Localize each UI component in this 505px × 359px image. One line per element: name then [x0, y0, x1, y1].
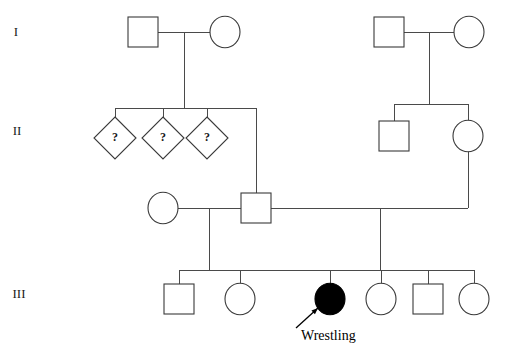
individual-ii-4 — [379, 121, 409, 151]
pedigree-chart: ??? IIIIII Wrestling — [0, 0, 505, 359]
individual-ii-2-label: ? — [160, 130, 166, 144]
individual-ii-5 — [453, 120, 483, 152]
individual-ii-1-label: ? — [112, 130, 118, 144]
generation-3: III — [13, 286, 26, 301]
individual-iii-4 — [366, 283, 396, 315]
individual-i-4 — [454, 16, 484, 48]
individual-ii-3-label: ? — [204, 130, 210, 144]
individual-iii-6 — [459, 283, 489, 315]
individual-iii-3 — [315, 283, 345, 315]
proband-annotation-text: Wrestling — [301, 328, 356, 343]
generation-2: II — [13, 123, 22, 138]
individual-iii-1 — [164, 284, 194, 314]
pedigree-canvas: ??? IIIIII Wrestling — [0, 0, 505, 359]
individual-iii-5 — [413, 284, 443, 314]
individual-ii-6 — [148, 192, 178, 224]
generation-1: I — [14, 24, 18, 39]
individual-i-3 — [374, 17, 404, 47]
individual-iii-2 — [225, 283, 255, 315]
individual-i-2 — [210, 16, 240, 48]
individual-i-1 — [128, 17, 158, 47]
individual-ii-7 — [241, 193, 271, 223]
